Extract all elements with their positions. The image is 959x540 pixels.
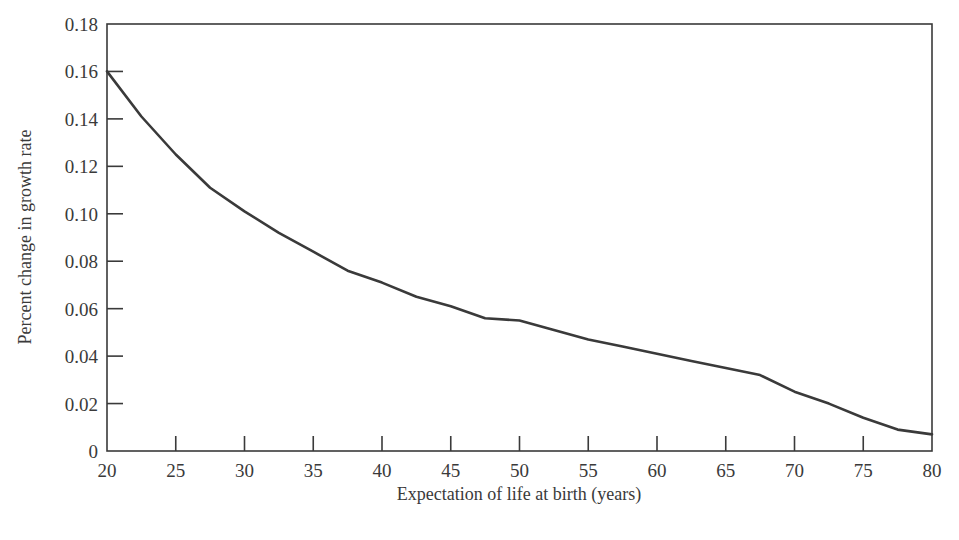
x-axis-ticks: 20253035404550556065707580 — [98, 436, 942, 481]
y-tick-label: 0.08 — [65, 251, 98, 272]
line-chart: 00.020.040.060.080.100.120.140.160.18 20… — [0, 0, 959, 540]
x-tick-label: 35 — [304, 460, 323, 481]
y-axis-title: Percent change in growth rate — [15, 130, 35, 345]
data-series — [107, 71, 932, 434]
y-tick-label: 0.10 — [65, 204, 98, 225]
x-tick-label: 65 — [716, 460, 735, 481]
x-tick-label: 20 — [98, 460, 117, 481]
x-tick-label: 30 — [235, 460, 254, 481]
x-tick-label: 40 — [373, 460, 392, 481]
y-tick-label: 0 — [89, 441, 99, 462]
y-tick-label: 0.14 — [65, 109, 99, 130]
x-tick-label: 70 — [785, 460, 804, 481]
y-tick-label: 0.12 — [65, 156, 98, 177]
x-tick-label: 60 — [648, 460, 667, 481]
x-tick-label: 55 — [579, 460, 598, 481]
x-tick-label: 50 — [510, 460, 529, 481]
x-tick-label: 25 — [166, 460, 185, 481]
y-tick-label: 0.18 — [65, 14, 98, 35]
y-tick-label: 0.04 — [65, 346, 99, 367]
x-tick-label: 45 — [441, 460, 460, 481]
x-tick-label: 75 — [854, 460, 873, 481]
x-axis-title: Expectation of life at birth (years) — [397, 484, 641, 505]
y-tick-label: 0.16 — [65, 61, 98, 82]
plot-frame — [107, 24, 932, 451]
y-tick-label: 0.06 — [65, 299, 98, 320]
growth-rate-line — [107, 71, 932, 434]
plot-border — [107, 24, 932, 451]
x-tick-label: 80 — [923, 460, 942, 481]
y-tick-label: 0.02 — [65, 394, 98, 415]
